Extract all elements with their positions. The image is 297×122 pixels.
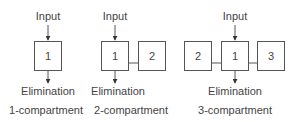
- caption: 1-compartment: [9, 104, 83, 116]
- compartment-box: 1: [221, 41, 249, 71]
- compartment-box: 1: [101, 41, 129, 71]
- compartment-box: 2: [138, 41, 166, 71]
- input-label: Input: [103, 10, 127, 22]
- input-label: Input: [36, 10, 60, 22]
- compartment-box: 1: [34, 41, 62, 71]
- caption: 2-compartment: [94, 104, 168, 116]
- elimination-label: Elimination: [208, 85, 262, 97]
- elimination-label: Elimination: [21, 85, 75, 97]
- caption: 3-compartment: [198, 104, 272, 116]
- input-label: Input: [223, 10, 247, 22]
- compartment-box: 2: [184, 41, 212, 71]
- elimination-label: Elimination: [91, 85, 145, 97]
- compartment-box: 3: [257, 41, 285, 71]
